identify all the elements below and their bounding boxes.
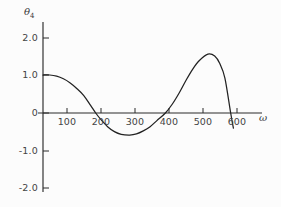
x-tick-label-200: 200 xyxy=(89,116,113,127)
x-tick-label-500: 500 xyxy=(191,116,215,127)
y-tick-marks xyxy=(43,38,49,188)
y-tick-label-2: 2.0 xyxy=(8,32,38,43)
x-tick-label-600: 600 xyxy=(225,116,249,127)
x-tick-label-400: 400 xyxy=(157,116,181,127)
y-axis-title-subscript: 4 xyxy=(30,12,34,20)
y-tick-label-neg1: -1.0 xyxy=(4,145,38,156)
y-tick-label-1: 1.0 xyxy=(8,69,38,80)
y-tick-label-0: 0 xyxy=(8,107,38,118)
chart-figure: 2.0 1.0 0 -1.0 -2.0 100 200 300 400 500 … xyxy=(0,0,281,207)
x-tick-label-100: 100 xyxy=(55,116,79,127)
y-axis-title: θ4 xyxy=(24,6,35,20)
x-tick-label-300: 300 xyxy=(123,116,147,127)
x-axis-title: ω xyxy=(259,112,267,123)
y-tick-label-neg2: -2.0 xyxy=(4,182,38,193)
plot-canvas xyxy=(0,0,281,207)
